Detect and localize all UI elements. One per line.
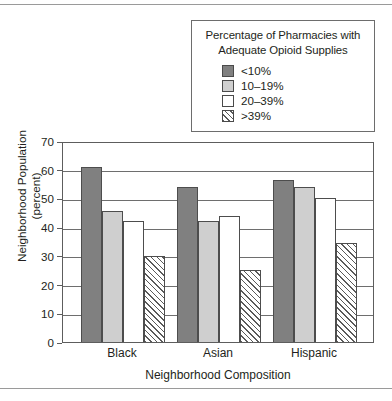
x-axis-title: Neighborhood Composition: [62, 368, 374, 382]
bar: [102, 211, 123, 342]
page-bottom-rule: [0, 388, 392, 389]
bar: [273, 180, 294, 342]
chart-legend: Percentage of Pharmacies with Adequate O…: [191, 20, 375, 132]
bar: [177, 187, 198, 342]
page-top-rule: [0, 4, 392, 5]
legend-item-gt39: >39%: [222, 108, 366, 123]
y-axis-tick-label: 60: [41, 165, 54, 177]
bar: [81, 167, 102, 342]
x-axis-tick-label: Asian: [203, 346, 233, 360]
legend-swatch-gt39: [222, 110, 234, 122]
y-axis-tick-label: 10: [41, 308, 54, 320]
bar: [240, 270, 261, 342]
bar: [123, 221, 144, 342]
bar: [198, 221, 219, 342]
bar-groups: [63, 143, 373, 342]
legend-item-10-19: 10–19%: [222, 78, 366, 93]
bar: [336, 243, 357, 342]
bar-group: [273, 143, 357, 342]
legend-label-20-39: 20–39%: [241, 94, 284, 107]
legend-label-lt10: <10%: [241, 64, 271, 77]
legend-title-line2: Adequate Opioid Supplies: [200, 43, 366, 58]
legend-swatch-10-19: [222, 80, 234, 92]
y-axis-tick-label: 30: [41, 251, 54, 263]
legend-label-gt39: >39%: [241, 109, 271, 122]
y-axis: 010203040506070: [0, 142, 62, 343]
plot-area: [62, 142, 374, 343]
legend-swatch-lt10: [222, 65, 234, 77]
y-axis-tick-label: 40: [41, 222, 54, 234]
y-axis-tick-label: 50: [41, 194, 54, 206]
x-axis-tick-labels: BlackAsianHispanic: [62, 346, 374, 362]
bar: [315, 198, 336, 342]
legend-title-line1: Percentage of Pharmacies with: [200, 28, 366, 43]
x-axis-tick-label: Black: [107, 346, 136, 360]
legend-swatch-20-39: [222, 95, 234, 107]
bar-group: [177, 143, 261, 342]
x-axis-tick-label: Hispanic: [291, 346, 337, 360]
y-axis-tick-label: 0: [48, 337, 54, 349]
bar: [144, 256, 165, 342]
legend-item-lt10: <10%: [222, 63, 366, 78]
legend-item-20-39: 20–39%: [222, 93, 366, 108]
bar: [294, 187, 315, 342]
y-axis-tick-label: 20: [41, 280, 54, 292]
bar-chart: Neighborhood Population (percent) 010203…: [0, 130, 392, 392]
bar: [219, 216, 240, 342]
legend-title: Percentage of Pharmacies with Adequate O…: [200, 28, 366, 57]
bar-group: [81, 143, 165, 342]
y-axis-tick-label: 70: [41, 136, 54, 148]
legend-label-10-19: 10–19%: [241, 79, 284, 92]
